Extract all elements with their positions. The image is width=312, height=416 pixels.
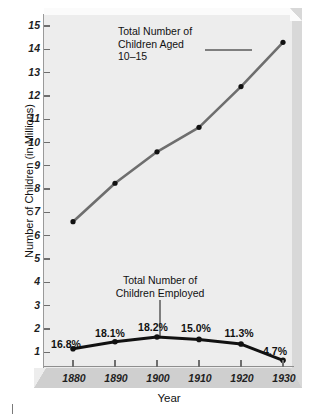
percent-label-1910: 15.0% <box>176 322 216 334</box>
x-axis-tick-label-1910: 1910 <box>178 372 222 384</box>
percent-label-1880: 16.8% <box>46 338 86 350</box>
x-axis-title: Year <box>44 392 294 404</box>
annotation-aged-line2: Children Aged <box>118 38 214 51</box>
data-point-aged-1890 <box>112 181 117 186</box>
percent-label-1890: 18.1% <box>90 327 130 339</box>
x-axis-tick-1890 <box>114 360 115 367</box>
data-point-aged-1880 <box>70 219 75 224</box>
x-axis-tick-1920 <box>240 360 241 367</box>
x-axis-tick-1910 <box>198 360 199 367</box>
x-axis-tick-1880 <box>72 360 73 367</box>
annotation-children-aged: Total Number of Children Aged 10–15 <box>118 25 214 63</box>
data-point-aged-1900 <box>154 149 159 154</box>
x-axis-line <box>44 366 294 367</box>
annotation-children-employed: Total Number of Children Employed <box>105 274 215 299</box>
percent-label-1930: 4.7% <box>255 345 295 357</box>
data-point-employed-1900 <box>154 334 160 340</box>
x-axis-tick-label-1900: 1900 <box>136 372 180 384</box>
percent-label-1900: 18.2% <box>133 321 173 333</box>
data-point-aged-1910 <box>196 125 201 130</box>
x-axis-tick-1930 <box>282 360 283 367</box>
data-point-aged-1920 <box>238 84 243 89</box>
x-axis-band-left-corner <box>34 368 46 388</box>
series-line-children-employed <box>73 337 283 360</box>
series-line-children-aged <box>73 42 283 221</box>
x-axis-tick-label-1890: 1890 <box>94 372 138 384</box>
data-point-employed-1890 <box>112 339 118 345</box>
x-axis-tick-label-1880: 1880 <box>52 372 96 384</box>
percent-label-1920: 11.3% <box>219 327 259 339</box>
x-axis-tick-label-1930: 1930 <box>262 372 306 384</box>
x-axis-tick-1900 <box>156 360 157 367</box>
annotation-aged-line3: 10–15 <box>118 50 214 63</box>
annotation-employed-line1: Total Number of <box>105 274 215 287</box>
annotation-aged-line1: Total Number of <box>118 25 214 38</box>
data-point-aged-1930 <box>280 40 285 45</box>
data-point-employed-1920 <box>238 341 244 347</box>
page-corner-mark <box>12 404 13 414</box>
x-axis-tick-label-1920: 1920 <box>220 372 264 384</box>
chart-figure: 151413121110987654321 Number of Children… <box>0 0 312 416</box>
annotation-employed-line2: Children Employed <box>105 287 215 300</box>
data-point-employed-1910 <box>196 337 202 343</box>
